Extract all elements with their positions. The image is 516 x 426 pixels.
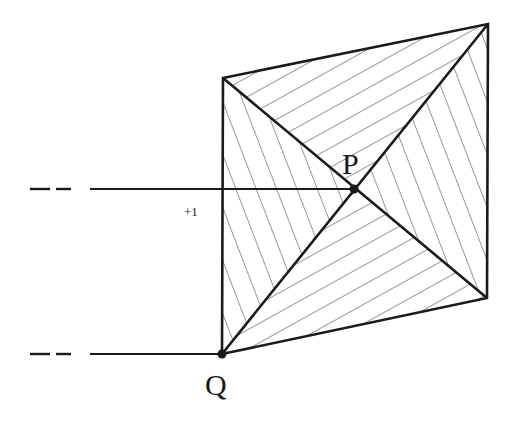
pyramid-diagram: P Q +1	[0, 0, 516, 426]
label-p: P	[342, 147, 359, 180]
point-q	[218, 350, 227, 359]
label-plus-one: +1	[184, 204, 198, 219]
label-q: Q	[205, 368, 227, 401]
point-p	[350, 185, 359, 194]
